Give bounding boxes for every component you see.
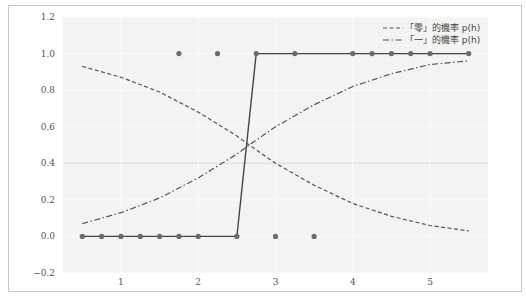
data-point [408, 51, 413, 56]
y-tick-label: 0.0 [41, 231, 56, 241]
data-point [466, 51, 471, 56]
y-tick-label: 1.0 [41, 49, 56, 59]
y-axis-ticks: −0.20.00.20.40.60.81.01.2 [33, 12, 55, 278]
data-point [157, 234, 162, 239]
data-point [389, 51, 394, 56]
data-point [292, 51, 297, 56]
x-tick-label: 1 [118, 277, 124, 287]
y-tick-label: 0.2 [41, 195, 55, 205]
data-point [369, 51, 374, 56]
y-tick-label: 1.2 [41, 12, 55, 22]
legend-label-zero: 「零」的機率 p(h) [405, 22, 480, 33]
outlier-point [312, 234, 317, 239]
outlier-point [176, 51, 181, 56]
data-point [350, 51, 355, 56]
x-tick-label: 2 [195, 277, 201, 287]
legend-label-one: 「一」的機率 p(h) [405, 34, 480, 45]
x-axis-ticks: 12345 [118, 277, 433, 287]
y-tick-label: 0.6 [41, 122, 56, 132]
y-tick-label: −0.2 [33, 268, 55, 278]
outlier-point [215, 51, 220, 56]
data-point [234, 234, 239, 239]
data-point [118, 234, 123, 239]
data-point [80, 234, 85, 239]
y-tick-label: 0.4 [41, 158, 56, 168]
data-point [427, 51, 432, 56]
data-point [99, 234, 104, 239]
x-tick-label: 4 [350, 277, 356, 287]
outlier-point [273, 234, 278, 239]
data-point [254, 51, 259, 56]
data-point [196, 234, 201, 239]
probability-chart: −0.20.00.20.40.60.81.01.2 12345 「零」的機率 p… [0, 0, 526, 301]
data-point [138, 234, 143, 239]
data-point [176, 234, 181, 239]
x-tick-label: 3 [273, 277, 279, 287]
x-tick-label: 5 [427, 277, 433, 287]
y-tick-label: 0.8 [41, 85, 56, 95]
